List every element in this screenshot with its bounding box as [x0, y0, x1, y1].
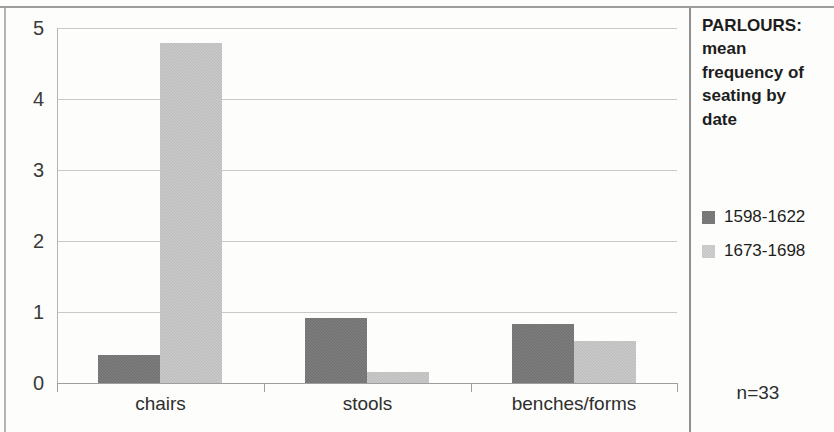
y-tick-label-0: 0 [18, 373, 44, 393]
chart-title-line-3: frequency of [702, 61, 828, 84]
y-tick-label-3: 3 [18, 160, 44, 180]
bar-stools-1598-1622[interactable] [305, 318, 367, 383]
y-tick-label-4: 4 [18, 89, 44, 109]
x-axis-label-chairs: chairs [57, 394, 264, 415]
x-axis-tick-1 [264, 383, 265, 392]
sample-size-annotation: n=33 [702, 382, 814, 404]
bar-stools-1673-1698[interactable] [367, 372, 429, 383]
x-axis-tick-2 [471, 383, 472, 392]
legend-label-1598-1622: 1598-1622 [724, 207, 805, 227]
axis-baseline-0 [57, 383, 677, 384]
gridline-1 [57, 312, 677, 313]
chart-title-line-2: mean [702, 37, 828, 60]
chart-title-line-1: PARLOURS: [702, 14, 828, 37]
chart-title-line-4: seating by [702, 84, 828, 107]
gridline-5 [57, 28, 677, 29]
bar-benches-forms-1598-1622[interactable] [512, 324, 574, 383]
chart-page: 5 4 3 2 1 0 chairs stools benches/forms … [0, 0, 834, 432]
legend-swatch-icon-1598-1622 [702, 211, 715, 224]
bar-chart-plot-area: 5 4 3 2 1 0 chairs stools benches/forms [0, 0, 690, 432]
y-tick-label-5: 5 [18, 18, 44, 38]
x-axis-tick-start [57, 383, 58, 392]
bar-chairs-1598-1622[interactable] [98, 355, 160, 383]
gridline-3 [57, 170, 677, 171]
legend-item-1598-1622[interactable]: 1598-1622 [702, 200, 828, 234]
legend-panel: PARLOURS: mean frequency of seating by d… [702, 10, 828, 422]
panel-divider [689, 8, 691, 432]
y-tick-label-2: 2 [18, 231, 44, 251]
legend-item-1673-1698[interactable]: 1673-1698 [702, 234, 828, 268]
chart-title-line-5: date [702, 108, 828, 131]
legend-label-1673-1698: 1673-1698 [724, 241, 805, 261]
chart-title: PARLOURS: mean frequency of seating by d… [702, 14, 828, 131]
bar-chairs-1673-1698[interactable] [160, 43, 222, 383]
legend: 1598-1622 1673-1698 [702, 200, 828, 268]
x-axis-label-stools: stools [264, 394, 471, 415]
x-axis-tick-end [677, 383, 678, 392]
legend-swatch-icon-1673-1698 [702, 245, 715, 258]
x-axis-label-benches-forms: benches/forms [471, 394, 677, 415]
y-tick-label-1: 1 [18, 302, 44, 322]
y-axis-line [57, 28, 58, 383]
gridline-4 [57, 99, 677, 100]
bar-benches-forms-1673-1698[interactable] [574, 341, 636, 383]
gridline-2 [57, 241, 677, 242]
